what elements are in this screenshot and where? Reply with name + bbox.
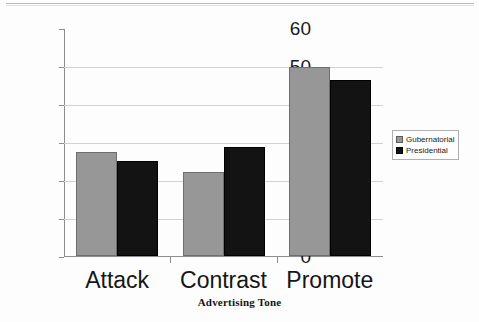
bar-attack-presidential — [117, 161, 158, 256]
bar-promote-presidential — [330, 80, 371, 256]
bar-promote-gubernatorial — [289, 67, 330, 256]
bar-contrast-presidential — [224, 147, 265, 256]
y-axis-tick — [59, 105, 64, 106]
page-top-rule-shadow — [6, 5, 474, 6]
category-separator — [170, 257, 171, 263]
legend-item-presidential: Presidential — [396, 145, 454, 156]
gridline — [64, 67, 383, 68]
legend: Gubernatorial Presidential — [392, 130, 459, 160]
y-axis-tick — [59, 181, 64, 182]
page-top-rule — [6, 3, 474, 4]
legend-label-presidential: Presidential — [406, 146, 448, 155]
chart-figure: Percent 0102030405060 AttackContrastProm… — [0, 0, 479, 322]
y-axis-tick — [59, 219, 64, 220]
legend-swatch-icon-gubernatorial — [396, 136, 403, 143]
x-axis-line — [64, 256, 383, 257]
plot-area: 0102030405060 — [64, 29, 383, 257]
x-axis-title: Advertising Tone — [0, 296, 479, 308]
y-axis-tick — [59, 29, 64, 30]
category-separator — [277, 257, 278, 263]
bar-attack-gubernatorial — [76, 152, 117, 257]
legend-label-gubernatorial: Gubernatorial — [406, 135, 454, 144]
y-axis-tick-label: 60 — [290, 19, 311, 38]
y-axis-tick — [59, 143, 64, 144]
y-axis-tick — [59, 257, 64, 258]
legend-swatch-icon-presidential — [396, 147, 403, 154]
bar-contrast-gubernatorial — [183, 172, 224, 256]
legend-item-gubernatorial: Gubernatorial — [396, 134, 454, 145]
x-axis-label-promote: Promote — [250, 268, 410, 292]
y-axis-tick — [59, 67, 64, 68]
